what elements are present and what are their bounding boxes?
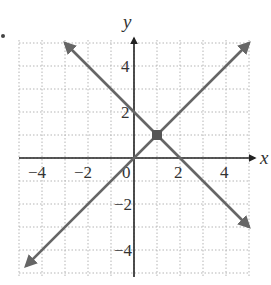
bullet-icon [0,33,6,39]
y-axis-label: y [121,11,132,32]
data-line [26,43,249,266]
coordinate-plane: xy −4−2024−4−224 [0,0,271,285]
intersection-marker [152,130,162,140]
data-lines [26,43,249,266]
x-tick-label: −4 [28,163,47,182]
y-tick-label: −4 [114,241,133,260]
y-tick-label: 4 [121,57,130,76]
x-tick-label: −2 [74,163,92,182]
x-tick-label: 2 [174,163,183,182]
y-tick-label: −2 [114,195,132,214]
x-axis-label: x [259,147,269,168]
intersection-point [152,130,162,140]
x-tick-label: 4 [220,163,229,182]
